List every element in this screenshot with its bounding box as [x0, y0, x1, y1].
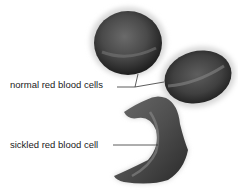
blood-cell-diagram: normal red blood cells sickled red blood… — [0, 0, 238, 195]
normal-cells-label: normal red blood cells — [10, 80, 103, 90]
diagram-illustration — [0, 0, 238, 195]
normal-red-blood-cell-top — [90, 7, 166, 77]
sickled-cell-label: sickled red blood cell — [10, 140, 98, 150]
sickled-red-blood-cell — [114, 96, 188, 183]
